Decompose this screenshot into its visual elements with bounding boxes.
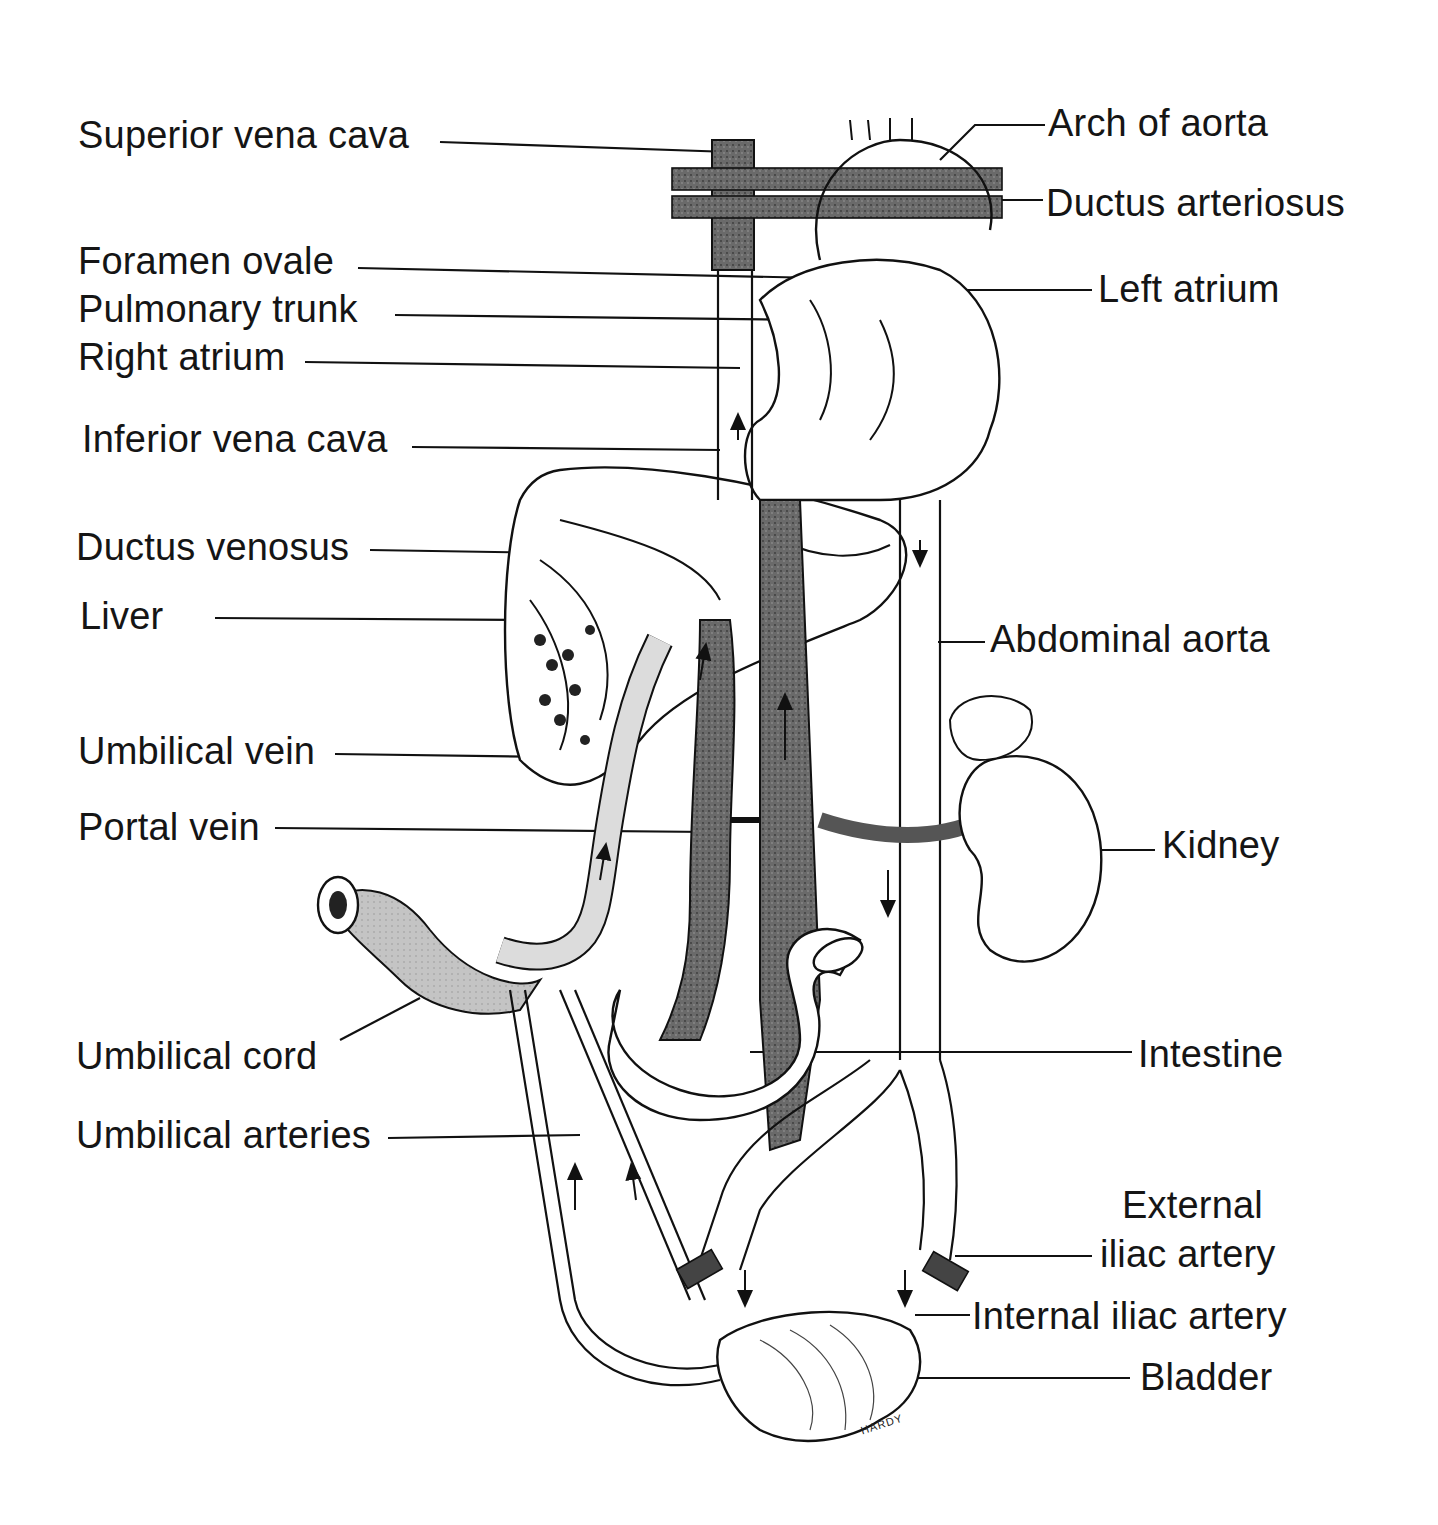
label-umbilical-cord: Umbilical cord	[76, 1037, 317, 1075]
label-superior-vena-cava: Superior vena cava	[78, 116, 409, 154]
label-portal-vein: Portal vein	[78, 808, 260, 846]
label-kidney: Kidney	[1162, 826, 1279, 864]
label-abdominal-aorta: Abdominal aorta	[990, 620, 1270, 658]
label-ductus-arteriosus: Ductus arteriosus	[1046, 184, 1345, 222]
label-foramen-ovale: Foramen ovale	[78, 242, 334, 280]
label-external-iliac-artery-line1: External	[1122, 1186, 1263, 1224]
label-liver: Liver	[80, 597, 163, 635]
label-bladder: Bladder	[1140, 1358, 1272, 1396]
label-umbilical-arteries: Umbilical arteries	[76, 1116, 371, 1154]
fetal-circulation-diagram: Superior vena cava Foramen ovale Pulmona…	[0, 0, 1438, 1525]
label-inferior-vena-cava: Inferior vena cava	[82, 420, 388, 458]
label-arch-of-aorta: Arch of aorta	[1048, 104, 1268, 142]
label-intestine: Intestine	[1138, 1035, 1283, 1073]
label-pulmonary-trunk: Pulmonary trunk	[78, 290, 358, 328]
label-left-atrium: Left atrium	[1098, 270, 1280, 308]
kidney-shape	[960, 756, 1102, 961]
label-external-iliac-artery-line2: iliac artery	[1100, 1235, 1276, 1273]
label-ductus-venosus: Ductus venosus	[76, 528, 349, 566]
label-umbilical-vein: Umbilical vein	[78, 732, 315, 770]
heart-shape	[745, 260, 999, 500]
label-right-atrium: Right atrium	[78, 338, 285, 376]
label-internal-iliac-artery: Internal iliac artery	[972, 1297, 1287, 1335]
